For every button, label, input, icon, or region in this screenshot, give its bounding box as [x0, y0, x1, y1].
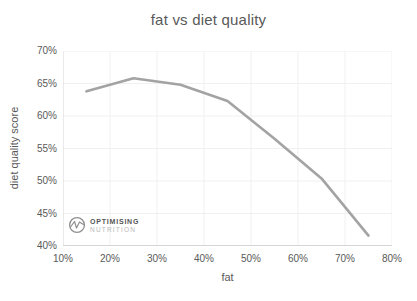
- watermark-line2: NUTRITION: [90, 226, 139, 233]
- x-tick-label: 20%: [92, 253, 128, 265]
- chart-figure: fat vs diet quality diet quality score 4…: [0, 0, 417, 301]
- x-tick-label: 10%: [45, 253, 81, 265]
- y-tick-label: 40%: [25, 240, 57, 252]
- x-tick-label: 50%: [233, 253, 269, 265]
- watermark-line1: OPTIMISING: [90, 218, 139, 225]
- series-line: [87, 78, 369, 235]
- y-tick-label: 55%: [25, 143, 57, 155]
- optimising-nutrition-logo-icon: [68, 216, 86, 234]
- watermark: OPTIMISING NUTRITION: [68, 216, 139, 234]
- chart-title: fat vs diet quality: [0, 11, 417, 28]
- watermark-text: OPTIMISING NUTRITION: [90, 218, 139, 233]
- x-tick-label: 30%: [139, 253, 175, 265]
- y-tick-label: 65%: [25, 78, 57, 90]
- y-tick-label: 50%: [25, 175, 57, 187]
- y-tick-label: 60%: [25, 110, 57, 122]
- y-axis-title: diet quality score: [8, 88, 20, 208]
- x-tick-label: 40%: [186, 253, 222, 265]
- x-tick-label: 70%: [327, 253, 363, 265]
- y-tick-label: 45%: [25, 208, 57, 220]
- x-axis-title: fat: [63, 271, 392, 283]
- y-tick-label: 70%: [25, 45, 57, 57]
- x-tick-label: 80%: [374, 253, 410, 265]
- x-tick-label: 60%: [280, 253, 316, 265]
